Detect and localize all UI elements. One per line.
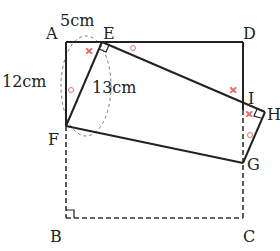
solid-figure-lines [66, 42, 265, 163]
measure-EF: 13cm [92, 78, 137, 97]
dashed-original-outline [66, 110, 243, 218]
label-C: C [243, 227, 255, 246]
label-I: I [248, 89, 254, 108]
label-A: A [45, 24, 58, 43]
label-H: H [267, 105, 280, 124]
label-B: B [50, 227, 62, 246]
label-D: D [243, 24, 256, 43]
cross-marker-hig: × [245, 108, 253, 119]
label-F: F [48, 130, 59, 149]
measure-AE: 5cm [60, 11, 94, 30]
cross-marker-dig: × [229, 84, 237, 95]
label-G: G [247, 155, 260, 174]
label-E: E [103, 24, 115, 43]
measurement-labels: 5cm 12cm 13cm [2, 11, 137, 97]
cross-marker-aef: × [85, 45, 93, 56]
measure-AF: 12cm [2, 72, 47, 91]
geometry-figure: × × × A E D F I H G B C 5cm 12cm 13cm [0, 0, 280, 251]
